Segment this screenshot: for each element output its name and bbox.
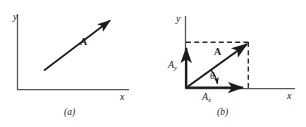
panel-b-angle-label: θ: [210, 72, 215, 82]
figure-root: y x A (a): [0, 0, 306, 127]
panel-b-y-component-subscript: y: [174, 64, 177, 72]
panel-a-vector-label: A: [80, 37, 87, 47]
panel-b-x-component-label: Ax: [202, 92, 211, 102]
panel-a-x-axis-label: x: [120, 92, 124, 102]
panel-b-x-component-subscript: x: [208, 96, 211, 104]
panel-a-vector-arrow: [44, 21, 110, 71]
panel-a-y-axis-label: y: [13, 12, 17, 22]
panel-b-x-axis-label: x: [287, 91, 291, 101]
panel-b-y-component-label: Ay: [168, 60, 177, 70]
panel-a-drawing: [0, 0, 153, 127]
panel-b-caption: (b): [217, 108, 228, 118]
panel-a-caption: (a): [64, 108, 75, 118]
panel-b-vector-label: A: [214, 47, 221, 57]
panel-b-y-axis-label: y: [176, 14, 180, 24]
panel-b: y x A Ay Ax θ (b): [153, 0, 306, 127]
panel-a: y x A (a): [0, 0, 153, 127]
